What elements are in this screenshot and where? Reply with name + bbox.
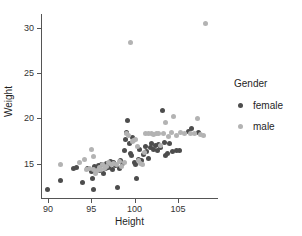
data-point-male <box>77 160 82 165</box>
data-point-male <box>195 116 200 121</box>
data-point-male <box>91 154 96 159</box>
x-tick-mark <box>48 199 49 203</box>
data-point-male <box>142 150 147 155</box>
data-point-female <box>177 148 182 153</box>
y-tick-mark <box>37 73 41 74</box>
y-axis-title: Weight <box>3 72 14 132</box>
data-point-male <box>169 130 174 135</box>
data-point-female <box>74 165 79 170</box>
data-point-female <box>189 126 194 131</box>
y-tick-label: 25 <box>24 68 34 78</box>
y-tick-label: 15 <box>24 159 34 169</box>
data-point-female <box>91 187 96 192</box>
legend-item-male[interactable]: male <box>232 118 300 135</box>
data-point-female <box>110 167 115 172</box>
x-tick-mark <box>178 199 179 203</box>
y-tick-label: 30 <box>24 23 34 33</box>
x-tick-label: 95 <box>86 204 96 214</box>
data-point-female <box>143 144 148 149</box>
data-point-male <box>122 160 127 165</box>
data-point-male <box>171 114 176 119</box>
y-tick-label: 20 <box>24 113 34 123</box>
legend-swatch-female-icon <box>238 103 243 108</box>
data-point-male <box>182 131 187 136</box>
y-tick-mark <box>37 118 41 119</box>
data-point-male <box>192 131 197 136</box>
data-point-female <box>146 156 151 161</box>
data-point-female <box>122 148 127 153</box>
legend-title: Gender <box>232 78 300 89</box>
data-point-male <box>89 147 94 152</box>
x-tick-label: 105 <box>170 204 185 214</box>
data-point-female <box>167 141 172 146</box>
legend-item-female[interactable]: female <box>232 97 300 114</box>
data-point-female <box>80 180 85 185</box>
data-point-female <box>45 187 50 192</box>
data-point-female <box>115 185 120 190</box>
data-point-male <box>82 157 87 162</box>
x-tick-label: 100 <box>127 204 142 214</box>
data-point-male <box>135 144 140 149</box>
data-point-male <box>140 162 145 167</box>
legend-label-female: female <box>253 100 283 111</box>
plot-area <box>41 14 217 198</box>
data-point-female <box>125 118 130 123</box>
x-tick-label: 90 <box>43 204 53 214</box>
x-tick-mark <box>135 199 136 203</box>
y-tick-mark <box>37 164 41 165</box>
data-point-male <box>161 131 166 136</box>
data-point-male <box>203 21 208 26</box>
data-point-female <box>101 171 106 176</box>
data-point-male <box>133 137 138 142</box>
data-point-female <box>58 178 63 183</box>
data-point-male <box>128 40 133 45</box>
x-axis-title: Height <box>41 216 218 227</box>
scatter-plot-figure: 15202530 9095100105 Weight Height Gender… <box>0 0 302 236</box>
data-point-female <box>129 153 134 158</box>
legend-swatch-male-icon <box>238 124 243 129</box>
legend-label-male: male <box>253 121 275 132</box>
data-point-female <box>160 108 165 113</box>
x-axis-line <box>41 198 218 199</box>
x-tick-mark <box>91 199 92 203</box>
data-point-female <box>90 176 95 181</box>
data-point-male <box>201 133 206 138</box>
data-point-male <box>58 162 63 167</box>
legend: Gender female male <box>232 78 300 139</box>
y-tick-mark <box>37 28 41 29</box>
data-point-male <box>163 120 168 125</box>
data-point-female <box>134 176 139 181</box>
data-point-male <box>126 133 131 138</box>
